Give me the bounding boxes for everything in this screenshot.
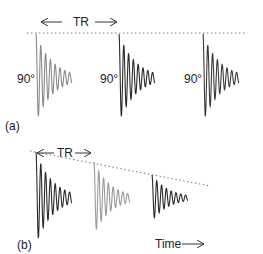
fid-signals-a [36,34,239,116]
panel-b: TR (b) Time [17,146,210,252]
fid-waveform [152,175,188,218]
pulse-label-1: 90° [17,72,35,86]
fid-signals-b [36,152,188,238]
fid-waveform [119,34,155,116]
t1-saturation-diagram: TR 90° 90° 90° (a) TR (b) Time [0,0,263,254]
pulse-label-3: 90° [184,72,202,86]
panel-a: TR 90° 90° 90° (a) [5,15,247,133]
panel-b-label: (b) [17,238,32,252]
panel-a-label: (a) [5,119,20,133]
tr-label-b: TR [57,146,73,160]
fid-waveform [36,34,72,116]
fid-waveform [36,152,72,238]
fid-waveform [203,34,239,116]
fid-waveform [94,162,130,229]
tr-label-a: TR [73,15,89,29]
time-label: Time [155,237,182,251]
pulse-label-2: 90° [100,72,118,86]
